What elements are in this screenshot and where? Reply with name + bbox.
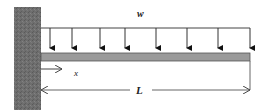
position-label: x — [73, 68, 78, 78]
beam — [41, 53, 250, 61]
load-arrows — [50, 28, 250, 48]
cantilever-beam-diagram: w x L — [0, 0, 263, 112]
load-label: w — [137, 8, 144, 19]
fixed-wall-support — [14, 7, 41, 110]
length-label: L — [135, 84, 143, 96]
